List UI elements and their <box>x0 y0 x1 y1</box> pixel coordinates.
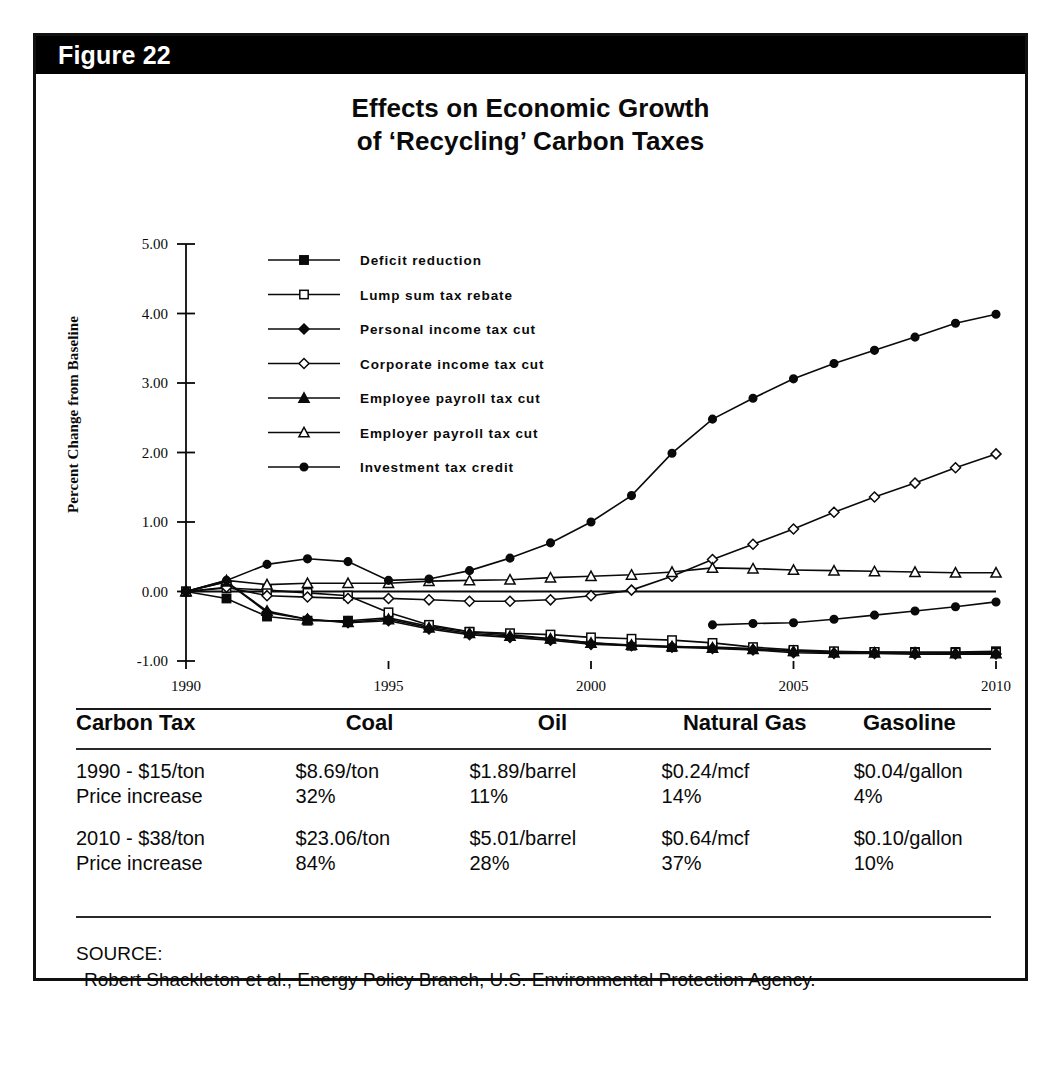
series-marker <box>709 415 717 423</box>
table-cell: $1.89/barrel <box>469 750 661 784</box>
series-marker <box>871 611 879 619</box>
series-marker <box>384 593 394 603</box>
series-marker <box>830 360 838 368</box>
series-marker <box>829 507 839 517</box>
figure-label: Figure 22 <box>58 41 171 70</box>
chart-title-line-2: of ‘Recycling’ Carbon Taxes <box>36 125 1025 158</box>
series-marker <box>992 598 1000 606</box>
legend-label: Employer payroll tax cut <box>360 426 538 441</box>
table-cell: Price increase <box>76 851 296 876</box>
series-marker <box>789 524 799 534</box>
series-marker <box>587 518 595 526</box>
series-marker <box>182 588 190 596</box>
series-marker <box>424 595 434 605</box>
table-body: 1990 - $15/ton$8.69/ton$1.89/barrel$0.24… <box>76 748 991 876</box>
table-cell: $0.04/gallon <box>854 750 991 784</box>
chart-title-line-1: Effects on Economic Growth <box>36 92 1025 125</box>
table-cell: $8.69/ton <box>296 750 470 784</box>
carbon-tax-table: Carbon TaxCoalOilNatural GasGasoline 199… <box>76 708 991 876</box>
table-cell: 10% <box>854 851 991 876</box>
series-marker <box>992 310 1000 318</box>
x-tick-label: 2000 <box>576 678 606 694</box>
table-cell: $0.24/mcf <box>662 750 854 784</box>
series-marker <box>547 539 555 547</box>
series-marker <box>668 449 676 457</box>
series-marker <box>465 596 475 606</box>
table-head: Carbon TaxCoalOilNatural GasGasoline <box>76 710 991 748</box>
series-marker <box>790 375 798 383</box>
series-marker <box>790 619 798 627</box>
table-cell: Price increase <box>76 784 296 809</box>
line-chart-svg: 5.004.003.002.001.000.00-1.0019901995200… <box>36 176 1031 696</box>
table-header-cell: Gasoline <box>854 710 991 748</box>
figure-card: Figure 22 Effects on Economic Growth of … <box>33 33 1028 981</box>
table-element: Carbon TaxCoalOilNatural GasGasoline 199… <box>76 710 991 876</box>
series-marker <box>627 585 637 595</box>
series-marker <box>628 492 636 500</box>
source-text: Robert Shackleton et al., Energy Policy … <box>76 967 906 993</box>
source-note: SOURCE:Robert Shackleton et al., Energy … <box>76 941 991 992</box>
table-row: 1990 - $15/ton$8.69/ton$1.89/barrel$0.24… <box>76 750 991 784</box>
source-divider <box>76 916 991 918</box>
table-cell: $0.10/gallon <box>854 826 991 851</box>
y-tick-label: 3.00 <box>142 375 168 391</box>
series-marker <box>466 567 474 575</box>
series-marker <box>830 616 838 624</box>
figure-header-bar: Figure 22 <box>36 36 1025 74</box>
y-tick-label: 5.00 <box>142 236 168 252</box>
series-marker <box>546 595 556 605</box>
series-marker <box>748 539 758 549</box>
table-row: Price increase84%28%37%10% <box>76 851 991 876</box>
x-tick-label: 2010 <box>981 678 1011 694</box>
table-header-cell: Coal <box>296 710 470 748</box>
table-header-cell: Carbon Tax <box>76 710 296 748</box>
x-tick-label: 2005 <box>779 678 809 694</box>
table-header-row: Carbon TaxCoalOilNatural GasGasoline <box>76 710 991 748</box>
table-cell: 2010 - $38/ton <box>76 826 296 851</box>
table-cell: $0.64/mcf <box>662 826 854 851</box>
y-tick-label: -1.00 <box>137 653 168 669</box>
y-tick-label: 2.00 <box>142 445 168 461</box>
table-row: 2010 - $38/ton$23.06/ton$5.01/barrel$0.6… <box>76 826 991 851</box>
y-tick-label: 0.00 <box>142 584 168 600</box>
legend-marker-filled-square <box>300 256 308 264</box>
series-marker <box>304 555 312 563</box>
series-marker <box>870 492 880 502</box>
series-marker <box>385 577 393 585</box>
series-marker <box>709 621 717 629</box>
table-cell: 37% <box>662 851 854 876</box>
table-cell: 4% <box>854 784 991 809</box>
table-header-cell: Natural Gas <box>662 710 854 748</box>
series-marker <box>263 561 271 569</box>
legend-label: Deficit reduction <box>360 253 482 268</box>
series-marker <box>506 554 514 562</box>
chart-title: Effects on Economic Growth of ‘Recycling… <box>36 92 1025 159</box>
series-marker <box>505 596 515 606</box>
chart-plot-area: Percent Change from Baseline 5.004.003.0… <box>36 176 1031 696</box>
table-header-cell: Oil <box>469 710 661 748</box>
legend-marker-open-diamond <box>299 359 309 369</box>
table-group-gap <box>76 809 991 826</box>
series-line <box>186 314 996 591</box>
y-tick-label: 1.00 <box>142 514 168 530</box>
table-cell: 14% <box>662 784 854 809</box>
table-cell: 1990 - $15/ton <box>76 750 296 784</box>
legend-label: Employee payroll tax cut <box>360 391 541 406</box>
source-label: SOURCE: <box>76 943 163 964</box>
legend-label: Corporate income tax cut <box>360 357 544 372</box>
y-tick-label: 4.00 <box>142 306 168 322</box>
table-cell: $23.06/ton <box>296 826 470 851</box>
legend-marker-filled-circle <box>300 463 308 471</box>
x-tick-label: 1990 <box>171 678 201 694</box>
table-cell: 28% <box>469 851 661 876</box>
table-cell: $5.01/barrel <box>469 826 661 851</box>
series-marker <box>749 394 757 402</box>
series-marker <box>952 319 960 327</box>
legend-marker-open-square <box>300 290 308 298</box>
y-axis-title: Percent Change from Baseline <box>65 300 82 530</box>
table-cell: 32% <box>296 784 470 809</box>
series-marker <box>911 607 919 615</box>
table-cell: 84% <box>296 851 470 876</box>
series-marker <box>222 594 230 602</box>
series-marker <box>425 575 433 583</box>
